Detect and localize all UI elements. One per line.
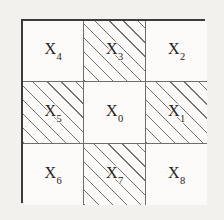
cell-symbol-x1: X (168, 102, 180, 119)
cell-label-x2: X2 (168, 41, 185, 61)
cell-symbol-x5: X (44, 102, 56, 119)
cell-symbol-x6: X (44, 164, 56, 181)
cell-symbol-x3: X (106, 40, 118, 57)
cell-symbol-x7: X (106, 164, 118, 181)
grid-cell-x1: X1 (146, 82, 207, 144)
cell-label-x5: X5 (44, 103, 61, 123)
cell-symbol-x2: X (168, 40, 180, 57)
cell-label-x6: X6 (44, 165, 61, 185)
cell-subscript-x0: 0 (118, 113, 123, 124)
grid-cell-x3: X3 (84, 21, 146, 82)
grid-cell-x7: X7 (84, 144, 146, 205)
cell-symbol-x0: X (106, 102, 118, 119)
cell-label-x4: X4 (44, 41, 61, 61)
figure-canvas: X4 X3 X2 X5 X0 X1 X6 X7 X8 (0, 0, 224, 220)
cell-subscript-x3: 3 (118, 51, 123, 62)
grid-cell-x0: X0 (84, 82, 146, 144)
grid-cell-x6: X6 (23, 144, 84, 205)
cell-subscript-x1: 1 (180, 113, 185, 124)
cell-subscript-x2: 2 (180, 51, 185, 62)
neighborhood-grid: X4 X3 X2 X5 X0 X1 X6 X7 X8 (21, 19, 205, 203)
cell-symbol-x8: X (168, 164, 180, 181)
cell-label-x3: X3 (106, 41, 123, 61)
cell-label-x7: X7 (106, 165, 123, 185)
cell-label-x8: X8 (168, 165, 185, 185)
cell-subscript-x5: 5 (56, 113, 61, 124)
cell-subscript-x4: 4 (56, 51, 61, 62)
cell-label-x1: X1 (168, 103, 185, 123)
cell-symbol-x4: X (44, 40, 56, 57)
grid-cell-x2: X2 (146, 21, 207, 82)
grid-cell-x4: X4 (23, 21, 84, 82)
cell-subscript-x6: 6 (56, 175, 61, 186)
grid-cell-x5: X5 (23, 82, 84, 144)
cell-label-x0: X0 (106, 103, 123, 123)
grid-cell-x8: X8 (146, 144, 207, 205)
cell-subscript-x7: 7 (118, 175, 123, 186)
cell-subscript-x8: 8 (180, 175, 185, 186)
